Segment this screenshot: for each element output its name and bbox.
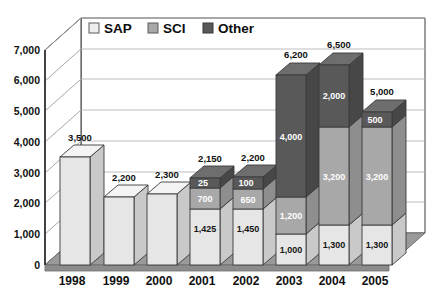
bar-segment-label: 1,300	[366, 240, 389, 250]
bar-seg-sap-side	[177, 182, 191, 265]
value-axis-labels: 0 1,000 2,000 3,000 4,000 5,000 6,000 7,…	[14, 44, 40, 271]
legend: SAP SCI Other	[89, 21, 255, 36]
xtick-label-2001: 2001	[189, 274, 216, 288]
bar-total-label: 2,200	[112, 172, 136, 183]
bar-segment-label: 1,200	[280, 211, 303, 221]
ytick-label: 3,000	[14, 167, 40, 179]
ytick-label: 7,000	[14, 44, 40, 56]
bar-group-1998: 3,500	[60, 132, 104, 265]
xtick-label-2003: 2003	[276, 274, 303, 288]
stacked-column-chart: 0 1,000 2,000 3,000 4,000 5,000 6,000 7,…	[0, 0, 434, 302]
ytick-label: 1,000	[14, 228, 40, 240]
bar-group-2004: 1,300 3,200 2,000 6,500	[319, 39, 363, 265]
bar-segment-label: 650	[240, 195, 255, 205]
bar-seg-sap-face	[104, 197, 134, 265]
bar-segment-label: 3,200	[366, 172, 389, 182]
category-axis-labels: 1998 1999 2000 2001 2002 2003 2004 2005	[59, 274, 389, 288]
bar-seg-sap-side	[90, 145, 104, 265]
xtick-label-1998: 1998	[59, 274, 86, 288]
bar-seg-sap-face	[147, 194, 177, 265]
bar-seg-sci-side	[392, 115, 406, 225]
plot-floor-front-rim	[45, 265, 389, 271]
bar-total-label: 6,200	[284, 49, 308, 60]
bar-seg-sap-face	[233, 209, 263, 265]
bar-segment-label: 3,200	[323, 172, 346, 182]
bar-segment-label: 4,000	[280, 132, 303, 142]
bar-total-label: 5,000	[370, 86, 394, 97]
legend-swatch-sap	[89, 23, 99, 33]
bar-segment-label: 25	[198, 178, 208, 188]
bar-total-label: 2,150	[198, 153, 222, 164]
bar-segment-label: 1,425	[194, 224, 217, 234]
ytick-label: 2,000	[14, 197, 40, 209]
bar-total-label: 2,300	[155, 169, 179, 180]
bar-segment-label: 1,300	[323, 240, 346, 250]
bar-segment-label: 1,450	[237, 224, 260, 234]
bar-seg-sap-side	[134, 185, 148, 265]
bar-seg-sap-face	[190, 209, 220, 265]
xtick-label-2002: 2002	[233, 274, 260, 288]
legend-label-sap: SAP	[104, 21, 132, 36]
xtick-label-2000: 2000	[146, 274, 173, 288]
bar-segment-label: 1,000	[280, 245, 303, 255]
bar-seg-other-side	[306, 63, 320, 197]
bar-segment-label: 100	[238, 178, 253, 188]
bar-group-2005: 1,300 3,200 500 5,000	[362, 86, 406, 265]
legend-label-sci: SCI	[163, 21, 186, 36]
ytick-label: 0	[34, 259, 40, 271]
bar-total-label: 6,500	[327, 39, 351, 50]
bar-segment-label: 700	[197, 194, 212, 204]
chart-figure: 0 1,000 2,000 3,000 4,000 5,000 6,000 7,…	[0, 0, 434, 302]
bar-total-label: 2,200	[241, 152, 265, 163]
xtick-label-1999: 1999	[103, 274, 130, 288]
bar-seg-sci-side	[349, 115, 363, 225]
bar-segment-label: 2,000	[323, 91, 346, 101]
xtick-label-2004: 2004	[319, 274, 346, 288]
ytick-label: 4,000	[14, 136, 40, 148]
bar-group-2003: 1,000 1,200 4,000 6,200	[276, 49, 320, 265]
ytick-label: 6,000	[14, 74, 40, 86]
bar-total-label: 3,500	[68, 132, 92, 143]
bar-segment-label: 500	[367, 115, 382, 125]
ytick-label: 5,000	[14, 105, 40, 117]
xtick-label-2005: 2005	[362, 274, 389, 288]
bar-seg-sap-face	[60, 157, 90, 265]
bar-seg-other-side	[349, 53, 363, 127]
legend-label-other: Other	[218, 21, 255, 36]
legend-swatch-other	[203, 23, 213, 33]
legend-swatch-sci	[148, 23, 158, 33]
